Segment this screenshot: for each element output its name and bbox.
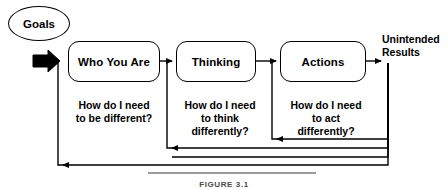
figure-caption: FIGURE 3.1 [0, 180, 448, 189]
question-who-you-are: How do I need to be different? [62, 99, 166, 125]
node-actions-label: Actions [302, 56, 345, 68]
block-arrow-goals-to-who-you-are [33, 50, 60, 72]
node-goals-label: Goals [23, 18, 55, 30]
node-who-you-are-label: Who You Are [78, 56, 150, 68]
node-who-you-are[interactable]: Who You Are [68, 41, 160, 82]
node-thinking[interactable]: Thinking [176, 41, 256, 82]
caption-divider [148, 172, 316, 174]
node-thinking-label: Thinking [192, 56, 241, 68]
question-actions: How do I need to act differently? [276, 99, 376, 138]
node-goals[interactable]: Goals [8, 6, 70, 41]
node-actions[interactable]: Actions [280, 41, 366, 82]
diagram-canvas: Goals Who You Are Thinking Actions Unint… [0, 0, 448, 189]
node-unintended-results-label: Unintended Results [382, 33, 448, 59]
question-thinking: How do I need to think differently? [170, 99, 270, 138]
